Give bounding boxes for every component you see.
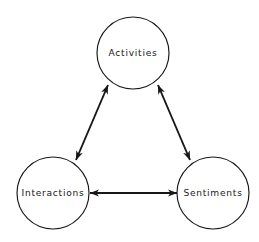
edge-activities-sentiments [158,85,190,160]
diagram-canvas: Activities Interactions Sentiments [0,0,259,242]
node-interactions[interactable]: Interactions [17,157,89,229]
edge-group [76,85,190,193]
node-sentiments[interactable]: Sentiments [177,157,249,229]
edge-activities-interactions [76,85,108,160]
interactions-label: Interactions [21,188,84,198]
node-activities[interactable]: Activities [97,17,169,89]
activities-label: Activities [109,48,158,58]
diagram-svg: Activities Interactions Sentiments [0,0,259,242]
sentiments-label: Sentiments [183,188,242,198]
